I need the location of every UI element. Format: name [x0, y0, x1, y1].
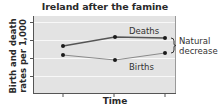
deaths-label: Deaths: [129, 26, 159, 36]
natural-decrease-label: Natural decrease: [179, 36, 218, 56]
y-axis-ticks: [30, 23, 33, 77]
births-label: Births: [129, 62, 154, 72]
natural-decrease-line1: Natural: [179, 36, 218, 46]
natural-decrease-line2: decrease: [179, 46, 218, 56]
x-axis-label: Time: [90, 96, 140, 106]
